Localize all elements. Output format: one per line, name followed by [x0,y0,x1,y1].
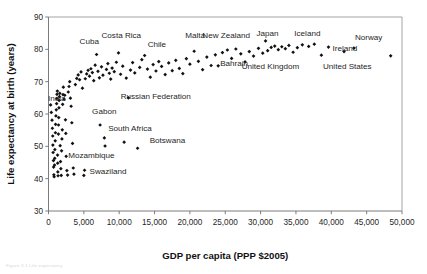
data-point [110,66,114,70]
data-point [221,51,225,55]
data-point [79,70,83,74]
data-point [197,59,201,63]
point-annotation: Iceland [294,29,320,38]
data-point [60,128,64,132]
data-point [96,69,100,73]
data-point [269,46,273,50]
data-point [307,45,311,49]
data-point [327,45,331,49]
data-point [261,51,265,55]
data-point [103,144,107,148]
data-point [69,96,73,100]
data-point [140,58,144,62]
data-point [89,67,93,71]
x-tick-label: 35,000 [283,218,308,227]
data-point [115,60,119,64]
data-point [50,118,54,122]
data-point [68,80,72,84]
x-tick-label: 40,000 [319,218,344,227]
data-point [109,77,113,81]
data-point [105,68,109,72]
data-point [83,168,87,172]
data-point [264,39,268,43]
data-point [57,116,61,120]
data-point [280,45,284,49]
point-annotation: Japan [257,29,279,38]
data-point [112,70,116,74]
data-point [51,134,55,138]
data-point [107,71,111,75]
data-point [83,77,87,81]
data-point [143,54,147,58]
data-point [90,71,94,75]
data-point [72,172,76,176]
x-tick-label: 10,000 [107,218,132,227]
point-annotation: Gabon [92,107,116,116]
point-annotation: Ireland [332,44,357,53]
data-point [66,173,70,177]
point-annotation: Bahrain [220,59,248,68]
data-point [60,137,64,141]
y-tick-label: 50 [34,142,44,151]
data-point [239,52,243,56]
data-point [86,69,90,73]
data-point [56,161,60,165]
data-point [54,114,58,118]
data-point [157,60,161,64]
data-point [122,140,126,144]
point-annotation: Mozambique [68,151,115,160]
data-point [192,49,196,53]
x-tick-label: 5,000 [74,218,95,227]
point-annotation: New Zealand [202,31,250,40]
data-point [247,50,251,54]
y-tick-label: 90 [34,13,44,22]
y-tick-label: 80 [34,45,44,54]
data-point [60,149,64,153]
data-point [51,151,55,155]
point-annotation: Botswana [150,136,186,145]
data-point [71,142,75,146]
data-point [226,48,230,52]
data-point [129,68,133,72]
data-point [65,169,69,173]
data-point [177,67,181,71]
data-point [98,76,102,80]
data-point [273,44,277,48]
data-point [121,64,125,68]
x-tick-label: 15,000 [142,218,167,227]
data-point [148,75,152,79]
data-point [88,74,92,78]
data-point [300,43,304,47]
data-point [106,62,110,66]
data-point [70,121,74,125]
figure-caption: Figure 3.1 Life expectancy [6,263,63,268]
x-axis-title: GDP per capita (PPP $2005) [162,250,288,261]
data-point [85,72,89,76]
data-point [66,90,70,94]
y-tick-label: 70 [34,78,44,87]
x-tick-label: 30,000 [248,218,273,227]
data-point [71,166,75,170]
data-point [389,54,393,58]
point-annotation: United States [323,62,372,71]
point-annotation: Russian Federation [121,92,191,101]
data-point [59,167,63,171]
data-point [119,72,123,76]
data-point [291,50,295,54]
data-point [320,53,324,57]
data-point [257,47,261,51]
data-point [201,68,205,72]
data-point [74,83,78,87]
data-point [283,47,287,51]
data-point [185,57,189,61]
data-point [181,72,185,76]
data-point [124,76,128,80]
point-annotation: South Africa [108,124,152,133]
data-point [98,123,102,127]
data-point [53,148,57,152]
x-tick-label: 50,000 [389,218,414,227]
y-axis-title: Life expectancy at birth (years) [5,43,16,184]
data-point [51,143,55,147]
data-point [61,85,65,89]
data-point [276,48,280,52]
